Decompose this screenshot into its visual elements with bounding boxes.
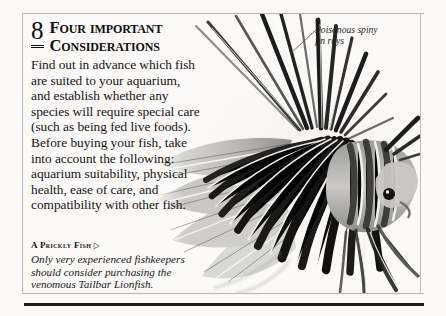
article-text-column: 8 Four important Considerations Find out…	[31, 18, 201, 226]
figure-caption: A Prickly Fish ▷ Only very experienced f…	[31, 240, 206, 291]
heading-line-2-rest: onsiderations	[61, 36, 160, 55]
right-rule	[420, 13, 421, 293]
heading-line-2-initial: C	[50, 36, 62, 55]
annotation-poisonous-spiny-fin-rays: Poisonous spiny fin rays	[315, 24, 385, 47]
book-page-scan: g pp	[0, 0, 446, 316]
clipped-text-row: g pp	[22, 0, 424, 12]
bottom-thick-rule	[24, 303, 424, 306]
heading-line-1-initial: F	[50, 18, 60, 37]
left-rule	[22, 13, 23, 293]
bottom-thin-rule	[22, 293, 424, 294]
caption-title-initial-a: A P	[31, 240, 46, 250]
caption-title-rest-b: ish	[80, 240, 91, 250]
section-heading-text: Four important Considerations	[50, 18, 163, 54]
heading-line-1-rest: our important	[59, 18, 162, 37]
caption-title: A Prickly Fish ▷	[31, 240, 206, 251]
caption-body: Only very experienced fishkeepers should…	[31, 253, 206, 291]
heading-line-2: Considerations	[50, 36, 163, 54]
section-number: 8	[31, 18, 44, 47]
section-heading: 8 Four important Considerations	[31, 18, 201, 54]
caption-arrow-icon: ▷	[94, 241, 100, 250]
caption-title-rest-a: rickly	[46, 240, 72, 250]
section-body-text: Find out in advance which fish are suite…	[31, 57, 201, 213]
heading-line-1: Four important	[50, 18, 163, 36]
